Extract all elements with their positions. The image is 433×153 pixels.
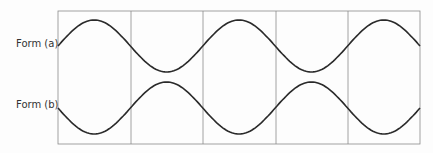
waveform-b: [58, 82, 420, 134]
grid: [58, 11, 420, 144]
waveform-diagram: [0, 0, 433, 153]
frame: [58, 11, 420, 144]
waveform-a: [58, 20, 420, 72]
